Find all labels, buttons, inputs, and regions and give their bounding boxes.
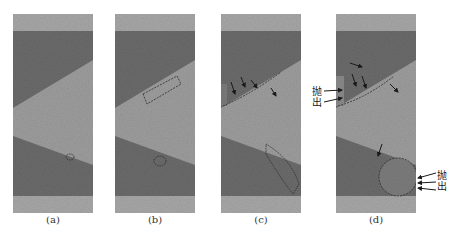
ejection-annotation-lower: 抛出 (437, 170, 449, 192)
panel-b (115, 14, 195, 213)
rock-layer-diagram-c (221, 14, 301, 213)
panel-d (336, 14, 416, 213)
panel-c (221, 14, 301, 213)
panel-label-c: (c) (221, 214, 301, 225)
rock-layer-diagram-a (13, 14, 93, 213)
ejection-arrows-upper (322, 86, 346, 110)
panel-a (13, 14, 93, 213)
rock-layer-diagram-b (115, 14, 195, 213)
ejection-arrows-lower (414, 170, 438, 196)
panel-label-b: (b) (115, 214, 195, 225)
panel-label-d: (d) (336, 214, 416, 225)
panel-label-a: (a) (13, 214, 93, 225)
rock-layer-diagram-d (336, 14, 416, 213)
